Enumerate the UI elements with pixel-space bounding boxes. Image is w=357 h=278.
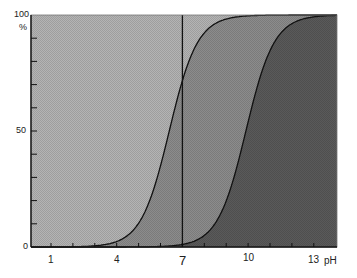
x-axis-unit: pH [324,255,337,266]
y-label-0: 0 [23,241,28,251]
x-label-4: 4 [114,254,120,265]
x-label-1: 1 [48,254,54,265]
plot-area [31,15,337,247]
y-axis-unit: % [19,22,27,32]
x-label-10: 10 [243,252,254,263]
x-label-7: 7 [179,253,186,268]
titration-chart [0,0,357,278]
y-label-100: 100 [14,9,29,19]
x-label-13: 13 [308,254,319,265]
y-label-50: 50 [16,125,26,135]
